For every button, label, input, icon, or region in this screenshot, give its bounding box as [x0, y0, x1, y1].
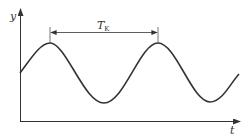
y-axis-label: y: [9, 10, 17, 23]
waveform-curve: [20, 43, 239, 103]
x-axis-label: t: [230, 124, 235, 137]
waveform-diagram: y t TK: [0, 0, 248, 139]
period-label: TK: [97, 19, 110, 33]
